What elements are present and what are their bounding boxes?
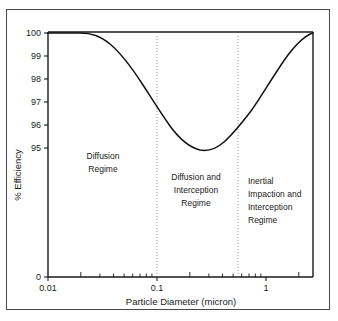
region-label-inertial-impaction: Inertial Impaction and Interception Regi…	[248, 176, 302, 225]
efficiency-vs-particle-diameter-chart: 100 99 98 97 96 95 0 % Efficiency	[0, 0, 338, 321]
region-label-inertial-impaction-line3: Interception	[248, 202, 293, 212]
region-label-diffusion-interception-line2: Interception	[174, 185, 219, 195]
x-axis-tick-labels: 0.01 0.1 1	[39, 283, 268, 293]
region-label-diffusion-line2: Regime	[88, 164, 118, 174]
region-label-diffusion-interception: Diffusion and Interception Regime	[171, 172, 221, 208]
region-label-diffusion: Diffusion Regime	[87, 151, 120, 174]
region-label-diffusion-interception-line1: Diffusion and	[171, 172, 221, 182]
region-label-inertial-impaction-line4: Regime	[248, 215, 278, 225]
x-tick-label-1: 1	[263, 283, 268, 293]
x-tick-label-0.1: 0.1	[151, 283, 164, 293]
region-label-diffusion-interception-line3: Regime	[181, 198, 211, 208]
y-tick-label-98: 98	[31, 74, 41, 84]
y-axis-tick-labels: 100 99 98 97 96 95 0	[26, 28, 41, 282]
efficiency-curve	[48, 33, 313, 150]
y-tick-label-96: 96	[31, 120, 41, 130]
y-tick-label-95: 95	[31, 143, 41, 153]
region-label-inertial-impaction-line2: Impaction and	[248, 189, 302, 199]
region-label-diffusion-line1: Diffusion	[87, 151, 120, 161]
y-tick-label-100: 100	[26, 28, 41, 38]
x-tick-label-0.01: 0.01	[39, 283, 57, 293]
x-axis-title: Particle Diameter (micron)	[126, 296, 236, 307]
y-tick-label-97: 97	[31, 97, 41, 107]
x-axis-minor-ticks	[81, 272, 299, 277]
figure-container: 100 99 98 97 96 95 0 % Efficiency	[0, 0, 338, 321]
region-dividers	[157, 36, 238, 276]
y-axis-title: % Efficiency	[12, 149, 23, 201]
y-tick-label-0: 0	[36, 272, 41, 282]
region-label-inertial-impaction-line1: Inertial	[248, 176, 274, 186]
y-tick-label-99: 99	[31, 51, 41, 61]
